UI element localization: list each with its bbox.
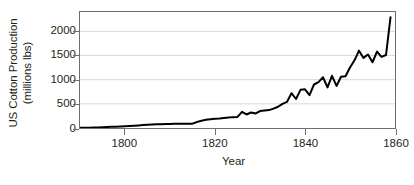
y-axis-label: US Cotton Production (millions lbs): [0, 0, 40, 145]
plot-area: [79, 11, 396, 129]
y-axis-tick-label: 2000: [38, 25, 76, 37]
y-axis-tick-label: 1500: [38, 50, 76, 62]
y-axis-tick-label: 500: [38, 99, 76, 111]
y-axis-label-line1: US Cotton Production: [6, 18, 20, 127]
y-axis-tick-mark: [73, 31, 79, 32]
y-axis-tick-mark: [73, 80, 79, 81]
x-axis-tick-mark: [124, 129, 125, 135]
y-axis-tick-labels: 0500100015002000: [38, 0, 76, 145]
x-axis-tick-mark: [396, 129, 397, 135]
x-axis-tick-label: 1820: [185, 137, 245, 150]
y-axis-tick-mark: [73, 55, 79, 56]
y-axis-label-line2: (millions lbs): [20, 18, 34, 127]
y-axis-tick-mark: [73, 129, 79, 130]
x-axis-tick-label: 1800: [94, 137, 154, 150]
y-axis-tick-mark: [73, 104, 79, 105]
x-axis-label: Year: [0, 155, 409, 167]
y-axis-tick-label: 1000: [38, 74, 76, 86]
x-axis-tick-mark: [215, 129, 216, 135]
y-axis-tick-label: 0: [38, 123, 76, 135]
x-axis-tick-mark: [305, 129, 306, 135]
x-axis-label-text: Year: [222, 155, 245, 167]
x-axis-tick-label: 1860: [366, 137, 414, 150]
data-line-us-cotton-production: [80, 17, 390, 128]
gridlines: [80, 31, 395, 104]
plot-svg: [80, 12, 395, 128]
x-axis-tick-label: 1840: [275, 137, 335, 150]
